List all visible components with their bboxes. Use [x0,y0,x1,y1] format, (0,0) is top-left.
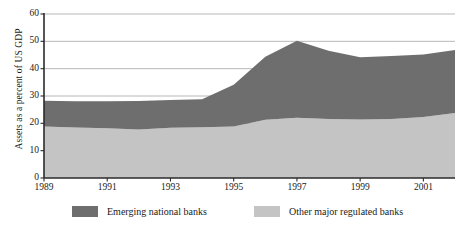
legend-item-other-major-regulated-banks: Other major regulated banks [254,202,403,220]
x-tick-label: 2001 [403,182,443,192]
y-tick-label: 50 [13,35,39,45]
y-tick-label: 40 [13,63,39,73]
y-tick-label: 30 [13,90,39,100]
x-tick-label: 1997 [277,182,317,192]
legend-swatch-other-major-regulated-banks [254,206,280,217]
chart-figure: Assets as a percent of US GDP 0102030405… [0,0,463,229]
area-series-emerging-national-banks [44,41,455,130]
legend-label-other-major-regulated-banks: Other major regulated banks [289,206,403,217]
chart-legend: Emerging national banks Other major regu… [0,202,463,224]
y-tick-label: 0 [13,172,39,182]
x-tick-label: 1999 [340,182,380,192]
y-tick-label: 10 [13,145,39,155]
x-tick-label: 1993 [150,182,190,192]
y-tick-label: 60 [13,8,39,18]
legend-item-emerging-national-banks: Emerging national banks [72,202,207,220]
legend-swatch-emerging-national-banks [72,206,98,217]
y-tick-label: 20 [13,117,39,127]
legend-label-emerging-national-banks: Emerging national banks [107,206,207,217]
x-tick-label: 1989 [24,182,64,192]
x-tick-label: 1991 [87,182,127,192]
x-tick-label: 1995 [214,182,254,192]
chart-plot-area [0,0,463,229]
